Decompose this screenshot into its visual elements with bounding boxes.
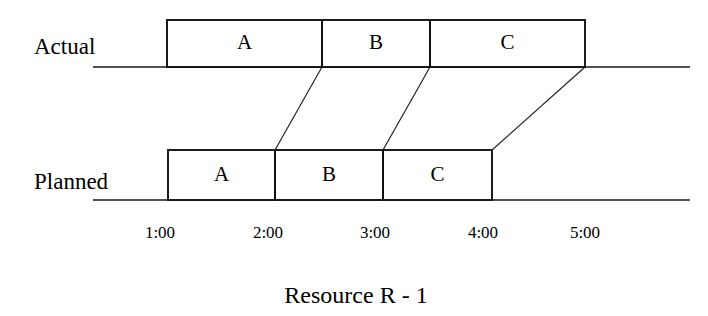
task-label-actual-c: C [500,30,514,54]
bars-group: ABCABC [167,20,585,200]
task-label-planned-c: C [430,162,444,186]
connectors-group [275,67,585,150]
task-label-planned-a: A [214,162,230,186]
row-labels-group: ActualPlanned [34,34,109,194]
bar-row-planned: ABC [168,150,492,200]
row-label-planned: Planned [34,169,109,194]
row-label-actual: Actual [34,34,95,59]
time-tick-label-3: 4:00 [468,223,498,242]
time-tick-label-1: 2:00 [253,223,283,242]
figure-caption: Resource R - 1 [284,282,427,308]
c-end-connector [492,67,585,150]
time-tick-label-4: 5:00 [570,223,600,242]
time-axis-group: 1:002:003:004:005:00 [145,223,600,242]
time-tick-label-0: 1:00 [145,223,175,242]
task-label-planned-b: B [322,162,336,186]
task-label-actual-b: B [369,30,383,54]
time-tick-label-2: 3:00 [360,223,390,242]
a-end-connector [275,67,322,150]
gantt-canvas: ABCABC ActualPlanned 1:002:003:004:005:0… [0,0,708,316]
gantt-chart-figure: ABCABC ActualPlanned 1:002:003:004:005:0… [0,0,708,316]
b-end-connector [383,67,430,150]
bar-row-actual: ABC [167,20,585,67]
task-label-actual-a: A [237,30,253,54]
